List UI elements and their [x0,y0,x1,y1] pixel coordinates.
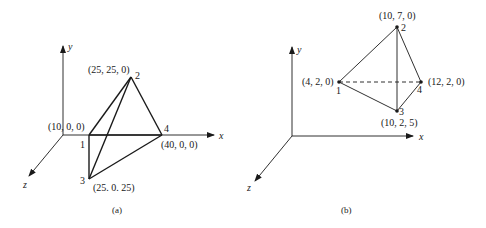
x-axis-label-b: x [418,131,424,142]
z-axis-b [255,136,292,181]
figure-a: y x z (10, 0, 0) 1 (25, 25, 0) 2 3 (25. … [22,41,224,215]
node-4-id-b: 4 [417,84,422,95]
tetrahedron-a [89,77,162,179]
edge-2-4-a [131,77,162,135]
node-2-coords-b: (10, 7, 0) [379,10,416,22]
y-axis-label-b: y [296,44,302,55]
origin-coords-a: (10, 0, 0) [48,121,85,133]
z-axis-a [29,135,63,176]
edge-2-4-b [397,27,421,82]
caption-a: (a) [112,205,122,215]
node-3-id-a: 3 [80,175,85,186]
x-axis-label-a: x [218,130,224,141]
node-1-coords-b: (4, 2, 0) [302,76,334,88]
edge-1-3-b [339,82,397,111]
node-2-dot-b [395,25,399,29]
node-3-id-b: 3 [399,106,404,117]
node-4-coords-a: (40, 0, 0) [161,139,198,151]
node-3-coords-b: (10, 2, 5) [381,117,418,129]
diagram-canvas: y x z (10, 0, 0) 1 (25, 25, 0) 2 3 (25. … [0,0,486,228]
node-1-dot-b [337,80,341,84]
node-3-coords-a: (25. 0. 25) [93,182,135,194]
node-2-id-a: 2 [135,70,140,81]
edge-2-3-a [89,77,131,179]
caption-b: (b) [341,205,352,215]
edge-1-2-b [339,27,397,82]
node-4-id-a: 4 [164,123,169,134]
node-2-coords-a: (25, 25, 0) [88,64,130,76]
y-axis-label-a: y [67,41,73,52]
nodes-b [337,25,423,113]
node-4-coords-b: (12, 2, 0) [428,76,465,88]
figure-b: y x z (4, 2, 0) 1 (10, 7, 0) 2 3 (10, 2,… [246,10,465,215]
edge-3-4-a [89,135,162,179]
node-2-id-b: 2 [401,22,406,33]
node-1-id-a: 1 [80,139,85,150]
node-1-id-b: 1 [336,85,341,96]
z-axis-label-a: z [22,179,27,190]
z-axis-label-b: z [246,182,251,193]
tetrahedron-b [339,27,421,111]
